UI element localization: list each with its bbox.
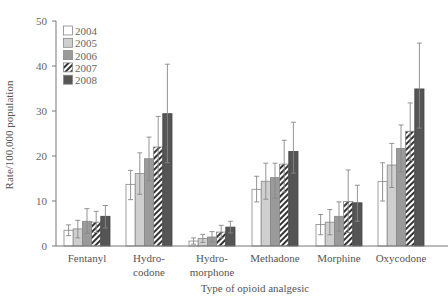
legend-swatch (64, 26, 73, 35)
y-tick-label: 40 (36, 60, 48, 72)
y-axis: 01020304050 (36, 15, 56, 252)
legend-label: 2005 (75, 37, 98, 49)
legend-swatch (64, 51, 73, 60)
legend-label: 2004 (75, 25, 98, 37)
bar-group (378, 43, 424, 246)
y-tick-label: 0 (42, 240, 48, 252)
legend-label: 2008 (75, 74, 98, 86)
x-category-label: Morphine (317, 252, 361, 264)
legend-item: 2007 (64, 62, 98, 74)
x-axis-title: Type of opioid analgesic (201, 282, 309, 294)
legend-item: 2005 (64, 37, 98, 49)
legend-label: 2006 (75, 50, 98, 62)
legend-item: 2008 (64, 74, 98, 86)
bar-group (126, 64, 172, 246)
bar-chart: 01020304050 FentanylHydro-codoneHydro-mo… (0, 0, 448, 303)
x-category-label: codone (133, 266, 165, 278)
x-category-label: Fentanyl (68, 252, 107, 264)
y-tick-label: 20 (36, 150, 48, 162)
legend-swatch (64, 75, 73, 84)
x-category-label: Oxycodone (376, 252, 427, 264)
bar-group (64, 206, 110, 247)
bar-group (252, 122, 298, 246)
y-axis-title: Rate/100,000 population (3, 80, 15, 189)
x-category-label: Methadone (250, 252, 300, 264)
y-tick-label: 10 (36, 195, 48, 207)
y-tick-label: 50 (36, 15, 48, 27)
legend-item: 2006 (64, 50, 98, 62)
x-category-label: Hydro- (133, 252, 165, 264)
bars-area (64, 43, 424, 246)
bar-group (189, 221, 235, 246)
legend-label: 2007 (75, 62, 98, 74)
y-tick-label: 30 (36, 105, 48, 117)
legend-item: 2004 (64, 25, 98, 37)
legend-swatch (64, 38, 73, 47)
legend: 20042005200620072008 (64, 25, 98, 86)
x-category-label: morphone (190, 266, 235, 278)
x-axis: FentanylHydro-codoneHydro-morphoneMethad… (56, 246, 448, 278)
legend-swatch (64, 63, 73, 72)
bar-group (316, 170, 362, 246)
x-category-label: Hydro- (196, 252, 228, 264)
